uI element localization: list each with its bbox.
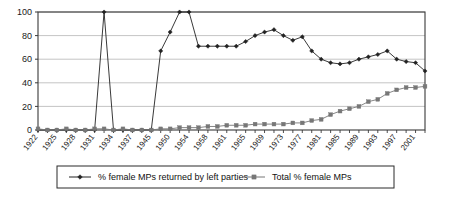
x-axis-tick-label: 1934 [97,132,115,152]
x-axis-tick-label: 1981 [305,132,323,152]
data-point [272,122,276,126]
x-axis-tick-label: 1985 [324,132,342,152]
y-axis-tick-label: 80 [22,31,32,41]
data-point [197,126,201,130]
data-point [149,128,153,132]
data-point [281,34,285,38]
data-point [376,52,380,56]
data-point [376,97,380,101]
data-point [262,30,266,34]
data-point [291,121,295,125]
x-axis-tick-label: 1931 [78,132,96,152]
data-point [347,61,351,65]
data-point [206,125,210,129]
data-point [319,117,323,121]
data-point [338,109,342,113]
x-axis-tick-label: 1977 [286,132,304,152]
data-point [357,105,361,109]
legend-marker [252,175,256,179]
data-point [244,123,248,127]
y-axis-tick-label: 20 [22,102,32,112]
data-point [272,28,276,32]
data-point [244,39,248,43]
data-point [385,92,389,96]
data-point [102,10,106,14]
data-point [253,122,257,126]
data-point [357,57,361,61]
x-axis-tick-label: 2001 [399,132,417,152]
data-point [253,34,257,38]
data-point [187,10,191,14]
line-chart: 020406080100 192219251928193119341937194… [0,0,451,197]
data-point [404,59,408,63]
data-point [177,10,181,14]
data-point [206,44,210,48]
y-axis-tick-label: 40 [22,78,32,88]
data-point [36,127,40,131]
y-axis-tick-label: 100 [17,7,32,17]
data-point [187,126,191,130]
x-axis-tick-label: 1928 [59,132,77,152]
legend-label: % female MPs returned by left parties [98,172,249,182]
data-point [74,128,78,132]
data-point [130,128,134,132]
x-axis-tick-label: 1950 [154,132,172,152]
data-point [225,123,229,127]
x-axis-tick-label: 1954 [173,132,191,152]
data-point [282,122,286,126]
data-point [291,38,295,42]
data-point [178,126,182,130]
data-point [234,44,238,48]
x-axis-tick-label: 1989 [342,132,360,152]
data-point [225,44,229,48]
grid-lines [38,12,425,106]
x-axis-tick-label: 1997 [380,132,398,152]
data-point [414,86,418,90]
data-point [159,49,163,53]
data-point [55,128,59,132]
data-point [395,88,399,92]
data-point [215,44,219,48]
x-axis-tick-label: 1922 [22,132,40,152]
x-axis-tick-label: 1958 [191,132,209,152]
legend-label: Total % female MPs [272,172,352,182]
data-point [121,127,125,131]
data-point [168,127,172,131]
data-point [300,121,304,125]
x-axis-labels: 1922192519281931193419371945195019541958… [22,132,418,152]
data-point [159,127,163,131]
data-point [46,128,50,132]
data-point [83,128,87,132]
x-axis-tick-label: 1961 [210,132,228,152]
data-point [310,119,314,123]
data-point [112,128,116,132]
chart-container: 020406080100 192219251928193119341937194… [0,0,451,197]
data-point [140,128,144,132]
series-1 [36,10,427,132]
data-point [93,127,97,131]
data-point [329,113,333,117]
chart-legend[interactable]: % female MPs returned by left partiesTot… [57,166,394,188]
data-point [366,55,370,59]
x-axis-tick-label: 1937 [116,132,134,152]
x-axis-tick-label: 1969 [248,132,266,152]
data-point [196,44,200,48]
x-axis-tick-label: 1993 [361,132,379,152]
data-point [102,127,106,131]
data-point [64,127,68,131]
data-point [366,100,370,104]
data-point [263,122,267,126]
y-axis-tick-label: 60 [22,54,32,64]
data-point [338,62,342,66]
x-axis-tick-label: 1925 [40,132,58,152]
data-point [423,84,427,88]
x-axis-tick-label: 1965 [229,132,247,152]
data-series-layer [36,10,427,132]
y-axis-ticks: 020406080100 [17,7,38,135]
x-axis-tick-label: 1945 [135,132,153,152]
x-axis-tick-label: 1973 [267,132,285,152]
data-point [168,30,172,34]
data-point [215,125,219,129]
data-point [329,61,333,65]
data-point [234,123,238,127]
